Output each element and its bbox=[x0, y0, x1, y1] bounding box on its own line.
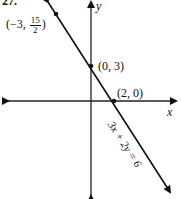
problem-number: 27. bbox=[2, 0, 17, 7]
graph-line bbox=[48, 2, 170, 192]
point-2-0 bbox=[112, 99, 117, 104]
y-axis-label: y bbox=[96, 0, 101, 12]
x-axis-label: x bbox=[167, 106, 172, 118]
point-label-neg3: (−3, 152) bbox=[6, 16, 46, 35]
point-label-0-3: (0, 3) bbox=[98, 60, 124, 72]
point-0-3 bbox=[89, 64, 94, 69]
point-label-2-0: (2, 0) bbox=[117, 87, 143, 99]
point-neg3-7.5 bbox=[54, 12, 59, 17]
